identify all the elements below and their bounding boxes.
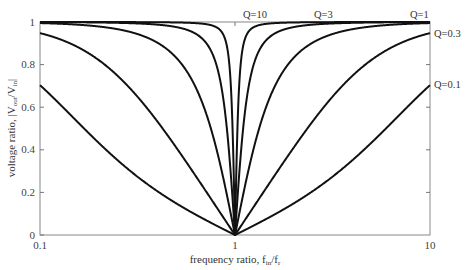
curve-label-q10: Q=10 [243, 9, 267, 20]
x-tick-label: 0.1 [33, 239, 47, 251]
y-tick-label: 0.4 [21, 143, 35, 155]
curve-q10 [40, 22, 430, 235]
curves [40, 22, 430, 235]
x-tick-label: 1 [232, 239, 238, 251]
curve-label-q1: Q=1 [410, 9, 429, 20]
y-tick-label: 1 [30, 16, 36, 28]
notch-response-chart: 0 0.2 0.4 0.6 0.8 1 0.1 1 10 frequency r… [0, 0, 468, 270]
y-tick-label: 0.2 [21, 186, 35, 198]
curve-label-q0.3: Q=0.3 [434, 28, 461, 39]
x-tick-label: 10 [425, 239, 437, 251]
curve-label-q3: Q=3 [314, 9, 333, 20]
curve-label-q0.1: Q=0.1 [434, 79, 461, 90]
x-axis-label: frequency ratio, fin/fr [190, 253, 281, 267]
y-tick-label: 0.8 [21, 58, 35, 70]
y-axis-label: voltage ratio, |Vout/Vin| [5, 79, 19, 178]
y-tick-label: 0.6 [21, 101, 35, 113]
